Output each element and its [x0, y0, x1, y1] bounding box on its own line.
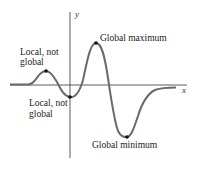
local-min-label-line2: global: [29, 109, 53, 119]
local-min-point: [68, 95, 72, 99]
x-axis-label: x: [181, 85, 186, 95]
global-min-label: Global minimum: [92, 140, 158, 150]
local-max-point: [44, 69, 48, 73]
global-min-point: [125, 135, 129, 139]
local-max-label-line1: Local, not: [20, 47, 59, 57]
y-axis-label: y: [74, 9, 79, 19]
local-max-label-line2: global: [20, 57, 44, 67]
global-max-label: Global maximum: [100, 33, 167, 43]
extrema-diagram: y x Local, not global Local, not global …: [0, 0, 199, 169]
global-max-point: [94, 41, 98, 45]
local-min-label-line1: Local, not: [29, 98, 68, 108]
